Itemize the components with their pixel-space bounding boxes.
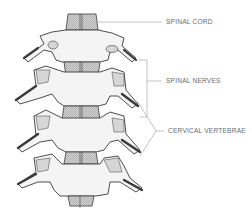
spine-illustration — [0, 0, 252, 211]
vertebra-2 — [16, 66, 138, 108]
label-spinal-nerves: SPINAL NERVES — [166, 77, 221, 84]
leader-cervical-vertebrae — [138, 102, 164, 156]
cervical-spine-diagram: SPINAL CORD SPINAL NERVES CERVICAL VERTE… — [0, 0, 252, 211]
vertebra-1 — [24, 30, 136, 62]
spinal-cord-bottom — [68, 196, 94, 208]
label-cervical-vertebrae: CERVICAL VERTEBRAE — [168, 127, 246, 134]
disc-3 — [64, 152, 98, 164]
spinal-cord-top — [66, 14, 98, 30]
leader-spinal-nerves — [138, 60, 162, 117]
label-spinal-cord: SPINAL CORD — [166, 18, 213, 25]
